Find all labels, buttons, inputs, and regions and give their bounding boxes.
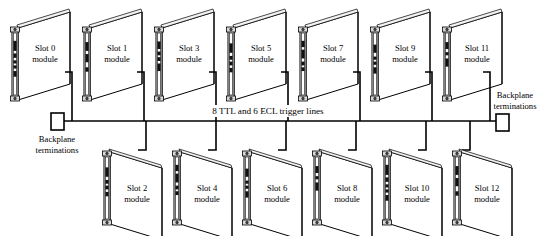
module-type-label: module: [176, 54, 202, 64]
panel-connector-block: [455, 178, 458, 186]
panel-connector-block: [373, 45, 376, 53]
termination-box: [51, 113, 64, 130]
module-bottom-screw: [246, 221, 249, 224]
panel-connector-block: [315, 166, 318, 173]
module-type-label: module: [248, 54, 274, 64]
bus-stub-path: [208, 121, 216, 150]
panel-connector-block: [105, 167, 108, 176]
termination-label-line2: terminations: [494, 101, 538, 111]
trigger-bus-label: 8 TTL and 6 ECL trigger lines: [212, 106, 324, 116]
module-slot-label: Slot 3: [179, 43, 199, 53]
panel-connector-block: [157, 64, 160, 72]
panel-connector-block: [175, 174, 178, 183]
panel-connector-block: [245, 169, 248, 177]
module-bottom-screw: [316, 221, 319, 224]
module-type-label: module: [404, 194, 430, 204]
panel-connector-block: [455, 166, 458, 175]
module-top-screw: [246, 152, 249, 155]
bus-stub-bottom: [138, 121, 146, 150]
module-card: Slot 2module: [103, 149, 163, 236]
module-bottom-screw: [158, 97, 161, 100]
module-card: Slot 7module: [299, 9, 359, 101]
panel-connector-block: [373, 57, 376, 60]
panel-connector-block: [315, 182, 318, 190]
module-card: Slot 4module: [173, 149, 233, 236]
panel-connector-block: [85, 54, 88, 62]
bus-stub-path: [278, 121, 286, 150]
panel-connector-block: [157, 57, 160, 61]
module-card: Slot 3module: [155, 9, 215, 101]
panel-connector-block: [385, 165, 388, 175]
module-bottom-screw: [86, 97, 89, 100]
panel-connector-block: [315, 176, 318, 179]
module-type-label: module: [264, 194, 290, 204]
panel-connector-block: [245, 186, 248, 189]
panel-connector-block: [229, 56, 232, 60]
module-type-label: module: [474, 194, 500, 204]
module-card: Slot 6module: [243, 149, 303, 236]
module-type-label: module: [392, 54, 418, 64]
module-top-screw: [386, 152, 389, 155]
module-slot-label: Slot 1: [107, 43, 127, 53]
module-top-screw: [302, 28, 305, 31]
module-card: Slot 0module: [11, 9, 71, 101]
bottom-module-row: Slot 2moduleSlot 4moduleSlot 6moduleSlot…: [103, 149, 513, 236]
module-top-screw: [456, 152, 459, 155]
module-card: Slot 8module: [313, 149, 373, 236]
module-card: Slot 12module: [453, 149, 513, 236]
bus-stub-path: [348, 121, 356, 150]
module-bottom-screw: [230, 97, 233, 100]
module-slot-label: Slot 4: [197, 183, 218, 193]
panel-connector-block: [175, 186, 178, 190]
module-bottom-screw: [302, 97, 305, 100]
panel-connector-block: [445, 42, 448, 49]
panel-connector-block: [445, 52, 448, 55]
module-card: Slot 10module: [383, 149, 443, 236]
module-slot-label: Slot 10: [405, 183, 430, 193]
module-top-screw: [374, 28, 377, 31]
termination-label-line1: Backplane: [497, 90, 533, 100]
diagram-labels: 8 TTL and 6 ECL trigger lines: [193, 105, 343, 117]
module-slot-label: Slot 7: [323, 43, 344, 53]
panel-connector-block: [245, 181, 248, 184]
module-slot-label: Slot 12: [475, 183, 500, 193]
module-bottom-screw: [446, 97, 449, 100]
panel-connector-block: [157, 41, 160, 49]
panel-connector-block: [85, 67, 88, 71]
module-bottom-screw: [386, 221, 389, 224]
panel-connector-block: [245, 191, 248, 197]
panel-connector-block: [455, 191, 458, 195]
module-bottom-screw: [374, 97, 377, 100]
module-card: Slot 1module: [83, 9, 143, 101]
bus-stub-bottom: [278, 121, 286, 150]
module-type-label: module: [334, 194, 360, 204]
termination-label-line2: terminations: [36, 145, 80, 155]
top-module-row: Slot 0moduleSlot 1moduleSlot 3moduleSlot…: [11, 9, 503, 101]
termination-label-line1: Backplane: [39, 134, 75, 144]
panel-connector-block: [373, 62, 376, 65]
bus-stub-bottom: [418, 121, 426, 150]
module-slot-label: Slot 9: [395, 43, 415, 53]
module-type-label: module: [320, 54, 346, 64]
bus-stub-bottom: [208, 121, 216, 150]
bus-stub-bottom: [462, 121, 470, 150]
module-top-screw: [14, 28, 17, 31]
module-slot-label: Slot 11: [465, 43, 489, 53]
module-slot-label: Slot 8: [337, 183, 357, 193]
module-slot-label: Slot 2: [127, 183, 147, 193]
panel-connector-block: [13, 71, 16, 77]
panel-connector-block: [229, 62, 232, 66]
panel-connector-block: [13, 53, 16, 57]
module-bottom-screw: [106, 221, 109, 224]
panel-connector-block: [13, 60, 16, 63]
bus-stub-path: [418, 121, 426, 150]
bus-stub-path: [462, 121, 470, 150]
module-slot-label: Slot 5: [251, 43, 271, 53]
panel-connector-block: [445, 58, 448, 66]
module-type-label: module: [194, 194, 220, 204]
panel-connector-block: [175, 165, 178, 171]
backplane-trigger-bus-diagram: Slot 0moduleSlot 1moduleSlot 3moduleSlot…: [0, 0, 552, 236]
module-card: Slot 9module: [371, 9, 431, 101]
module-bottom-screw: [14, 97, 17, 100]
module-top-screw: [316, 152, 319, 155]
